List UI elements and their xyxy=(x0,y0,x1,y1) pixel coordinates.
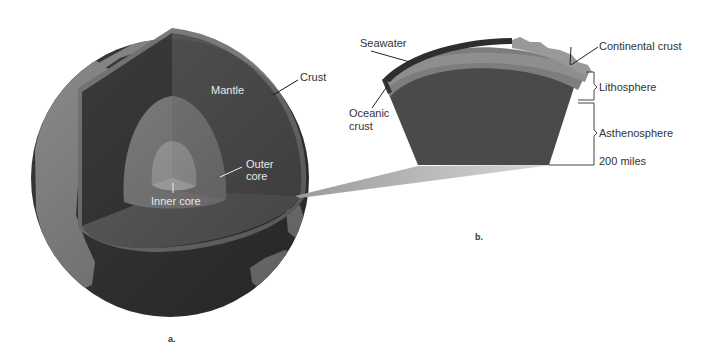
seawater-leader-line xyxy=(371,51,410,62)
mantle-label: Mantle xyxy=(211,84,244,97)
panel-b-caption: b. xyxy=(475,232,483,242)
crust-label: Crust xyxy=(300,71,326,84)
oceanic-crust-label-line2: crust xyxy=(349,120,373,133)
panel-a-caption: a. xyxy=(168,334,176,344)
crust-section xyxy=(382,37,592,165)
lithosphere-label: Lithosphere xyxy=(599,81,657,94)
asthenosphere-label: Asthenosphere xyxy=(599,127,673,140)
outer-core-label-line2: core xyxy=(246,170,267,183)
crust-leader-line xyxy=(273,80,298,95)
oceanic-crust-label-line1: Oceanic xyxy=(349,107,389,120)
inner-core-label: Inner core xyxy=(151,195,201,208)
continental-crust-label: Continental crust xyxy=(599,40,682,53)
depth-label: 200 miles xyxy=(599,155,646,168)
seawater-label: Seawater xyxy=(360,37,406,50)
zoom-beam xyxy=(295,165,552,198)
oceanic-crust-leader-line xyxy=(372,85,388,108)
